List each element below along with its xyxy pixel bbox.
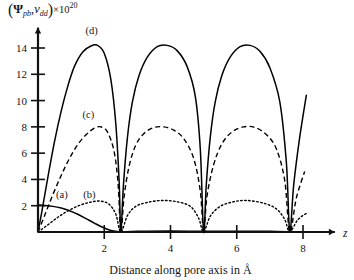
curve-label-a: (a) (56, 189, 68, 201)
ticks-group (31, 48, 303, 239)
curve-annotations: (a)(b)(c)(d) (56, 25, 98, 202)
figure-container: (Ψpb,vdd)×1020 24681012142468 (a)(b)(c)(… (0, 0, 354, 280)
curve-b (38, 200, 308, 232)
y-tick-label-2: 2 (22, 200, 28, 212)
curve-label-b: (b) (83, 189, 96, 201)
y-tick-label-8: 8 (22, 121, 28, 133)
x-tick-label-4: 4 (168, 242, 174, 254)
curve-label-c: (c) (83, 109, 95, 121)
y-tick-label-4: 4 (22, 173, 28, 185)
y-tick-label-12: 12 (16, 68, 27, 80)
curve-label-d: (d) (86, 25, 99, 37)
axis-tick-labels: 24681012142468 (16, 42, 306, 254)
x-axis-symbol: z (342, 227, 348, 239)
x-axis-arrowhead (329, 229, 335, 235)
x-tick-label-6: 6 (234, 242, 240, 254)
plot-area: 24681012142468 (a)(b)(c)(d) z Distance a… (0, 0, 354, 280)
curves-group (38, 45, 308, 233)
x-axis-caption: Distance along pore axis in Å (109, 263, 252, 277)
y-tick-label-6: 6 (22, 147, 28, 159)
y-tick-label-14: 14 (16, 42, 28, 54)
y-tick-label-10: 10 (16, 95, 28, 107)
curve-c (38, 126, 305, 232)
curve-a (38, 205, 290, 232)
x-tick-label-2: 2 (102, 242, 108, 254)
x-tick-label-8: 8 (300, 242, 306, 254)
y-axis-arrowhead (35, 28, 41, 34)
